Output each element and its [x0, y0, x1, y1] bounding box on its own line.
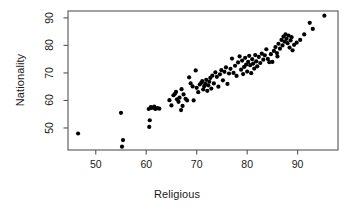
data-point: [273, 45, 277, 49]
data-point: [264, 47, 268, 51]
x-tick-label: 90: [283, 158, 313, 170]
data-point: [196, 90, 200, 94]
data-point: [157, 107, 161, 111]
data-point: [275, 54, 279, 58]
data-point: [185, 98, 189, 102]
data-point: [176, 100, 180, 104]
data-point: [213, 70, 217, 74]
data-point: [224, 65, 228, 69]
data-point: [322, 14, 326, 18]
data-point: [152, 104, 156, 108]
data-point: [257, 55, 261, 59]
data-point: [180, 104, 184, 108]
data-point: [295, 41, 299, 45]
scatter-plot-figure: Nationality Religious 5060708090 5060708…: [0, 0, 354, 216]
data-point: [149, 105, 153, 109]
data-point: [245, 69, 249, 73]
data-point: [280, 43, 284, 47]
data-points: [76, 14, 326, 149]
data-point: [221, 78, 225, 82]
data-point: [250, 57, 254, 61]
data-point: [191, 84, 195, 88]
data-point: [311, 27, 315, 31]
data-point: [302, 32, 306, 36]
data-point: [194, 68, 198, 72]
y-tick-label: 50: [43, 116, 57, 140]
data-point: [228, 67, 232, 71]
y-tick-label: 60: [43, 88, 57, 112]
y-axis-title: Nationality: [14, 0, 28, 160]
data-point: [207, 80, 211, 84]
data-point: [263, 53, 267, 57]
data-point: [243, 56, 247, 60]
data-point: [179, 87, 183, 91]
x-tick-label: 70: [182, 158, 212, 170]
data-point: [195, 86, 199, 90]
data-point: [289, 35, 293, 39]
data-point: [210, 74, 214, 78]
data-point: [147, 125, 151, 129]
data-point: [231, 71, 235, 75]
data-point: [269, 52, 273, 56]
x-tick-label: 60: [131, 158, 161, 170]
data-point: [181, 92, 185, 96]
x-tick-label: 80: [232, 158, 262, 170]
data-point: [225, 82, 229, 86]
y-tick-label: 70: [43, 61, 57, 85]
data-point: [236, 60, 240, 64]
data-point: [261, 58, 265, 62]
data-point: [234, 74, 238, 78]
data-point: [258, 61, 262, 65]
data-point: [205, 89, 209, 93]
data-point: [241, 72, 245, 76]
data-point: [222, 70, 226, 74]
data-point: [192, 98, 196, 102]
data-point: [167, 98, 171, 102]
data-point: [255, 64, 259, 68]
data-point: [308, 21, 312, 25]
data-point: [187, 75, 191, 79]
data-point: [218, 72, 222, 76]
data-point: [169, 103, 173, 107]
data-point: [148, 118, 152, 122]
data-point: [179, 108, 183, 112]
data-point: [120, 145, 124, 149]
data-point: [76, 131, 80, 135]
y-tick-label: 90: [43, 6, 57, 30]
data-point: [237, 54, 241, 58]
axis-ticks: [64, 18, 298, 155]
data-point: [233, 64, 237, 68]
x-tick-label: 50: [81, 158, 111, 170]
data-point: [209, 87, 213, 91]
data-point: [174, 90, 178, 94]
data-point: [298, 38, 302, 42]
x-axis-title: Religious: [0, 188, 354, 200]
data-point: [177, 96, 181, 100]
data-point: [230, 57, 234, 61]
y-tick-label: 80: [43, 33, 57, 57]
data-point: [212, 81, 216, 85]
data-point: [254, 59, 258, 63]
data-point: [290, 48, 294, 52]
data-point: [270, 60, 274, 64]
data-point: [119, 111, 123, 115]
data-point: [227, 71, 231, 75]
data-point: [247, 54, 251, 58]
data-point: [253, 53, 257, 57]
data-point: [216, 85, 220, 89]
data-point: [278, 47, 282, 51]
data-point: [249, 71, 253, 75]
data-point: [121, 138, 125, 142]
data-point: [206, 83, 210, 87]
data-point: [276, 42, 280, 46]
